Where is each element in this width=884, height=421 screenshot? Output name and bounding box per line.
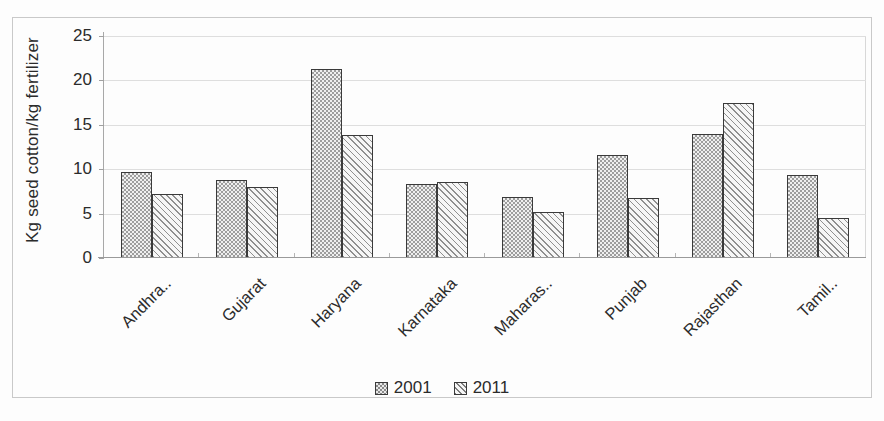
- bar-2001[interactable]: [502, 197, 533, 258]
- y-tick-label-10: 10: [73, 159, 92, 179]
- x-label-slot: Tamil..: [771, 262, 866, 358]
- x-axis-label: Rajasthan: [680, 274, 746, 340]
- y-tick-label-5: 5: [83, 204, 92, 224]
- bar-2001[interactable]: [692, 134, 723, 258]
- x-label-slot: Maharas..: [485, 262, 580, 358]
- bar-group: [676, 36, 771, 258]
- bar-group: [295, 36, 390, 258]
- bar-2001[interactable]: [406, 184, 437, 258]
- y-tick-mark-0: [99, 258, 104, 259]
- y-tick-label-0: 0: [83, 248, 92, 268]
- legend-item-2011[interactable]: 2011: [454, 378, 510, 398]
- legend-label: 2001: [394, 378, 432, 398]
- bar-2011[interactable]: [533, 212, 564, 258]
- x-axis-label: Karnataka: [394, 274, 461, 341]
- x-axis-label: Gujarat: [218, 274, 270, 326]
- chart-legend: 20012011: [0, 378, 884, 398]
- bar-2011[interactable]: [628, 198, 659, 258]
- y-axis-title: Kg seed cotton/kg fertilizer: [23, 15, 43, 265]
- x-label-slot: Rajasthan: [676, 262, 771, 358]
- bar-group: [104, 36, 199, 258]
- bar-groups: [104, 36, 866, 258]
- x-axis-label: Haryana: [308, 274, 366, 332]
- bar-group: [390, 36, 485, 258]
- bar-2001[interactable]: [121, 172, 152, 258]
- legend-item-2001[interactable]: 2001: [375, 378, 432, 398]
- x-axis-label: Tamil..: [794, 274, 841, 321]
- bar-2001[interactable]: [787, 175, 818, 258]
- bar-2001[interactable]: [216, 180, 247, 258]
- bar-group: [771, 36, 866, 258]
- x-label-slot: Haryana: [295, 262, 390, 358]
- x-axis-baseline: [98, 257, 866, 258]
- bar-group: [580, 36, 675, 258]
- legend-label: 2011: [473, 378, 510, 398]
- x-axis-label: Maharas..: [490, 274, 555, 339]
- x-label-slot: Andhra..: [104, 262, 199, 358]
- bar-2001[interactable]: [597, 155, 628, 258]
- x-label-slot: Karnataka: [390, 262, 485, 358]
- bar-2011[interactable]: [437, 182, 468, 258]
- bar-2011[interactable]: [342, 135, 373, 258]
- legend-swatch-2001: [375, 382, 388, 395]
- x-label-slot: Punjab: [580, 262, 675, 358]
- bar-2001[interactable]: [311, 69, 342, 258]
- x-label-slot: Gujarat: [199, 262, 294, 358]
- chart-figure: Kg seed cotton/kg fertilizer 0510152025 …: [0, 0, 884, 421]
- bar-2011[interactable]: [818, 218, 849, 258]
- bar-group: [485, 36, 580, 258]
- x-axis-labels: Andhra..GujaratHaryanaKarnatakaMaharas..…: [104, 262, 866, 358]
- plot-area: 0510152025: [104, 36, 866, 258]
- legend-swatch-2011: [454, 382, 467, 395]
- bar-2011[interactable]: [247, 187, 278, 258]
- x-axis-label: Punjab: [601, 274, 651, 324]
- y-tick-label-15: 15: [73, 115, 92, 135]
- bar-group: [199, 36, 294, 258]
- x-axis-label: Andhra..: [117, 274, 175, 332]
- bar-2011[interactable]: [152, 194, 183, 258]
- y-tick-label-20: 20: [73, 70, 92, 90]
- y-tick-label-25: 25: [73, 26, 92, 46]
- bar-2011[interactable]: [723, 103, 754, 258]
